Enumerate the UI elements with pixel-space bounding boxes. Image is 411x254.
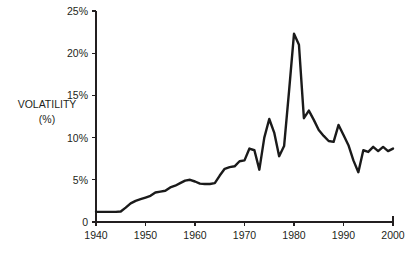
y-tick-label: 0 <box>82 216 88 228</box>
x-tick-label: 1960 <box>183 229 207 241</box>
x-tick-label: 1990 <box>332 229 356 241</box>
y-axis-title-line2: (%) <box>39 113 55 125</box>
volatility-chart: 05%10%15%20%25% 194019501960197019801990… <box>0 0 411 254</box>
x-tick-label: 1980 <box>282 229 306 241</box>
x-tick-label: 1940 <box>84 229 108 241</box>
chart-background <box>0 0 411 254</box>
y-tick-label: 10% <box>67 132 88 144</box>
y-tick-label: 5% <box>73 174 88 186</box>
y-tick-label: 25% <box>67 5 88 17</box>
x-tick-label: 1970 <box>233 229 257 241</box>
y-axis-title-line1: VOLATILITY <box>18 98 77 110</box>
chart-canvas: 05%10%15%20%25% 194019501960197019801990… <box>0 0 411 254</box>
y-tick-label: 20% <box>67 47 88 59</box>
x-tick-label: 1950 <box>134 229 158 241</box>
x-tick-label: 2000 <box>381 229 405 241</box>
